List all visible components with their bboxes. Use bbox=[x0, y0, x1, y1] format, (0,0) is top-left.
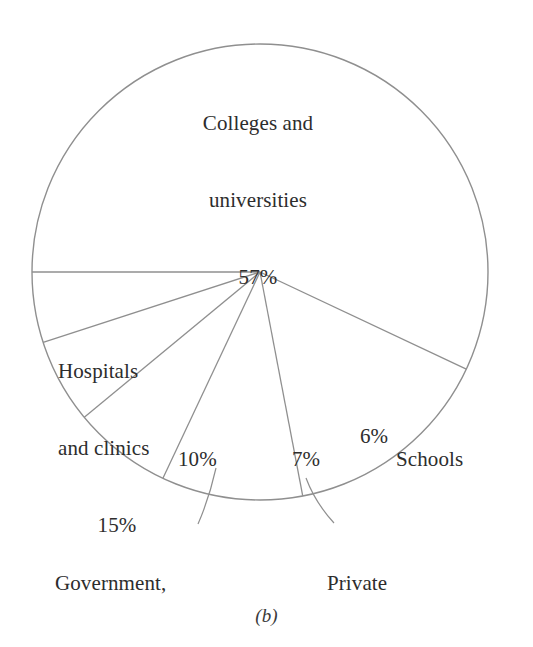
slice-percent-private-practice: 7% bbox=[292, 447, 320, 473]
slice-label-private-practice-line1: Private bbox=[327, 571, 457, 597]
leader-line-private-practice bbox=[306, 478, 334, 523]
pie-chart-figure: Colleges and universities 57% Hospitals … bbox=[0, 0, 533, 647]
slice-label-colleges: Colleges and universities 57% bbox=[163, 60, 353, 342]
slice-label-private-practice: Private practice bbox=[327, 520, 457, 647]
slice-percent-sixth: 6% bbox=[360, 424, 388, 450]
slice-label-schools: Schools bbox=[396, 447, 463, 473]
slice-label-government-line1: Government, bbox=[55, 571, 270, 597]
figure-caption: (b) bbox=[0, 604, 533, 627]
slice-label-colleges-line2: universities bbox=[163, 188, 353, 214]
slice-label-colleges-line1: Colleges and bbox=[163, 111, 353, 137]
slice-percent-colleges: 57% bbox=[163, 265, 353, 291]
slice-label-government: Government, military, or private researc… bbox=[55, 520, 270, 647]
slice-label-hospitals-line1: Hospitals bbox=[58, 359, 218, 385]
slice-percent-government: 10% bbox=[178, 447, 217, 473]
